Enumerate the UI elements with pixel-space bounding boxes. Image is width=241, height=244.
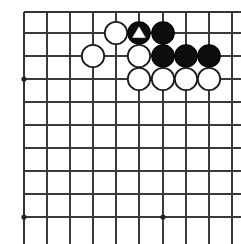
white-stone-icon (82, 45, 104, 67)
white-stone-c8-r4[interactable] (175, 68, 197, 90)
black-stone-c8-r3[interactable] (175, 45, 197, 67)
black-stone-icon (175, 45, 197, 67)
white-stone-c6-r3[interactable] (128, 45, 150, 67)
white-stone-icon (128, 68, 150, 90)
white-stone-c7-r4[interactable] (152, 68, 174, 90)
go-board-grid[interactable] (0, 0, 241, 244)
white-stone-c9-r4[interactable] (198, 68, 220, 90)
white-stone-icon (198, 68, 220, 90)
star-point-center-lower-icon (160, 214, 165, 219)
black-stone-icon (152, 45, 174, 67)
white-stone-c6-r4[interactable] (128, 68, 150, 90)
white-stone-icon (152, 68, 174, 90)
white-stone-icon (105, 22, 127, 44)
black-stone-c7-r2[interactable] (152, 22, 174, 44)
white-stone-icon (175, 68, 197, 90)
black-stone-icon (198, 45, 220, 67)
black-stone-c7-r3[interactable] (152, 45, 174, 67)
star-point-left-lower-icon (21, 214, 26, 219)
white-stone-c5-r2[interactable] (105, 22, 127, 44)
black-stone-icon (152, 22, 174, 44)
white-stone-icon (128, 45, 150, 67)
go-board-diagram (0, 0, 241, 244)
star-point-left-upper-icon (21, 76, 26, 81)
white-stone-c4-r3[interactable] (82, 45, 104, 67)
black-stone-c6-r2-marked[interactable] (128, 22, 150, 44)
stones-layer[interactable] (82, 22, 220, 90)
black-stone-c9-r3[interactable] (198, 45, 220, 67)
